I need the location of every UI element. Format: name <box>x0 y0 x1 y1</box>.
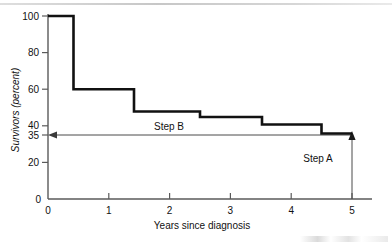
y-tick-label-60: 60 <box>28 84 40 95</box>
y-axis-title: Survivors (percent) <box>10 68 21 152</box>
x-tick-label-5: 5 <box>349 205 355 216</box>
step-a-label: Step A <box>303 153 333 164</box>
x-tick-label-0: 0 <box>45 205 51 216</box>
x-tick-label-4: 4 <box>288 205 294 216</box>
axis-group <box>48 14 372 199</box>
step-b-label: Step B <box>154 121 184 132</box>
y-tick-label-100: 100 <box>22 11 39 22</box>
x-tick-label-3: 3 <box>228 205 234 216</box>
chart-canvas: 100 80 60 40 35 20 0 0 1 2 3 4 5 Years s… <box>0 0 392 248</box>
step-a-annotation: Step A <box>303 131 355 199</box>
step-b-arrowhead <box>48 132 57 139</box>
x-tick-label-1: 1 <box>106 205 112 216</box>
x-axis-title: Years since diagnosis <box>154 220 250 231</box>
y-tick-label-20: 20 <box>28 157 40 168</box>
survival-curve-figure: 100 80 60 40 35 20 0 0 1 2 3 4 5 Years s… <box>0 0 392 248</box>
y-tick-group <box>42 16 48 162</box>
x-tick-label-2: 2 <box>167 205 173 216</box>
x-tick-labels: 0 1 2 3 4 5 <box>45 205 355 216</box>
scan-artifact-top <box>0 3 392 5</box>
y-tick-label-80: 80 <box>28 47 40 58</box>
scan-artifact-bottom <box>300 236 388 242</box>
y-tick-label-0: 0 <box>35 194 41 205</box>
y-tick-labels: 100 80 60 40 35 20 0 <box>22 11 41 205</box>
survival-step-curve <box>48 16 352 134</box>
y-tick-label-35: 35 <box>28 130 40 141</box>
x-tick-group <box>109 193 352 199</box>
